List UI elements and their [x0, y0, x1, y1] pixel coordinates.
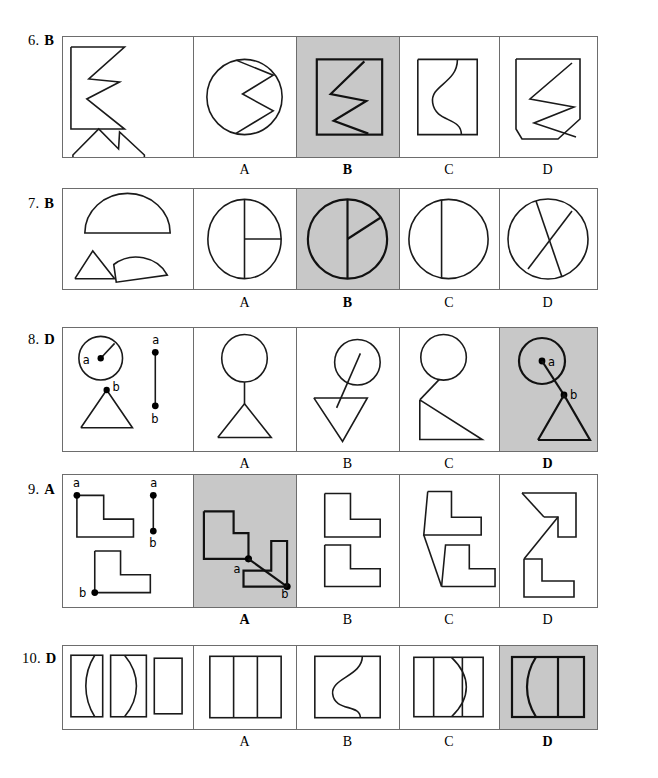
point-label-b: b: [113, 380, 120, 394]
option-figure-9-D: [500, 475, 597, 607]
option-figure-7-B: [297, 189, 399, 289]
option-letters-row-10: A B C D: [193, 735, 598, 749]
question-label-8: 8.D: [28, 332, 55, 347]
option-letter-7-C: C: [399, 296, 499, 310]
segment-label-b: b: [149, 536, 156, 550]
option-letter-8-B: B: [296, 457, 399, 471]
option-letter-8-A: A: [193, 457, 296, 471]
option-figure-9-B: [297, 475, 399, 607]
option-letter-8-C: C: [399, 457, 499, 471]
option-cell-6-B[interactable]: [297, 37, 400, 157]
question-number-10: 10.: [22, 650, 41, 666]
option-figure-10-B: [297, 646, 399, 729]
option-cell-9-A[interactable]: a b: [194, 475, 297, 607]
question-answer-7: B: [44, 195, 54, 211]
question-row-8: a b a b: [62, 327, 598, 452]
option-figure-10-A: [194, 646, 296, 729]
question-label-6: 6.B: [28, 33, 54, 48]
segment-label-b: b: [151, 412, 158, 426]
option-cell-7-C[interactable]: [400, 189, 500, 289]
point-label-a: a: [548, 355, 555, 369]
option-cell-10-D[interactable]: [500, 646, 597, 729]
option-figure-10-C: [400, 646, 499, 729]
point-label-b: b: [570, 388, 577, 402]
option-figure-7-A: [194, 189, 296, 289]
option-letter-10-A: A: [193, 735, 296, 749]
option-cell-7-D[interactable]: [500, 189, 597, 289]
option-cell-7-A[interactable]: [194, 189, 297, 289]
answer-key-page: 6.B: [0, 0, 658, 778]
prompt-figure-10: [63, 646, 193, 729]
option-cell-10-A[interactable]: [194, 646, 297, 729]
question-answer-8: D: [44, 331, 55, 347]
option-letter-7-A: A: [193, 296, 296, 310]
option-cell-8-A[interactable]: [194, 328, 297, 451]
option-letter-7-D: D: [499, 296, 596, 310]
option-cell-8-B[interactable]: [297, 328, 400, 451]
question-answer-9: A: [44, 481, 55, 497]
option-figure-10-D: [500, 646, 597, 729]
option-cell-8-C[interactable]: [400, 328, 500, 451]
option-letter-9-A: A: [193, 613, 296, 627]
option-cell-9-C[interactable]: [400, 475, 500, 607]
question-label-7: 7.B: [28, 196, 54, 211]
option-letter-10-C: C: [399, 735, 499, 749]
question-row-9: a a b b a b: [62, 474, 598, 608]
prompt-figure-8: a b a b: [63, 328, 193, 451]
segment-label-a: a: [150, 476, 157, 490]
option-figure-6-C: [400, 37, 499, 157]
option-letter-9-B: B: [296, 613, 399, 627]
question-row-6: [62, 36, 598, 158]
prompt-cell-8: a b a b: [63, 328, 194, 451]
option-figure-6-A: [194, 37, 296, 157]
option-cell-9-D[interactable]: [500, 475, 597, 607]
question-number-9: 9.: [28, 481, 39, 497]
option-figure-9-C: [400, 475, 499, 607]
question-row-10: [62, 645, 598, 730]
option-figure-7-D: [500, 189, 597, 289]
prompt-figure-7: [63, 189, 193, 289]
prompt-cell-9: a a b b: [63, 475, 194, 607]
option-letter-6-A: A: [193, 163, 296, 177]
prompt-cell-6: [63, 37, 194, 157]
question-number-7: 7.: [28, 195, 39, 211]
prompt-figure-6: [63, 37, 193, 157]
option-letter-9-C: C: [399, 613, 499, 627]
option-letters-row-7: A B C D: [193, 296, 598, 310]
question-number-6: 6.: [28, 32, 39, 48]
question-number-8: 8.: [28, 331, 39, 347]
option-figure-8-B: [297, 328, 399, 451]
option-cell-8-D[interactable]: a b: [500, 328, 597, 451]
point-label-a: a: [234, 562, 241, 576]
prompt-cell-10: [63, 646, 194, 729]
option-letter-6-C: C: [399, 163, 499, 177]
point-label-a: a: [83, 353, 90, 367]
option-figure-7-C: [400, 189, 499, 289]
option-letters-row-8: A B C D: [193, 457, 598, 471]
option-figure-6-D: [500, 37, 597, 157]
option-letter-9-D: D: [499, 613, 596, 627]
prompt-figure-9: a a b b: [63, 475, 193, 607]
option-cell-6-A[interactable]: [194, 37, 297, 157]
option-figure-8-A: [194, 328, 296, 451]
option-figure-9-A: a b: [194, 475, 296, 607]
option-cell-6-D[interactable]: [500, 37, 597, 157]
option-figure-8-C: [400, 328, 499, 451]
segment-label-a: a: [152, 333, 159, 347]
option-cell-7-B[interactable]: [297, 189, 400, 289]
option-letter-8-D: D: [499, 457, 596, 471]
option-cell-9-B[interactable]: [297, 475, 400, 607]
question-answer-6: B: [44, 32, 54, 48]
option-letters-row-6: A B C D: [193, 163, 598, 177]
option-cell-10-C[interactable]: [400, 646, 500, 729]
question-label-9: 9.A: [28, 482, 55, 497]
option-cell-6-C[interactable]: [400, 37, 500, 157]
point-label-b: b: [79, 586, 86, 600]
option-letter-7-B: B: [296, 296, 399, 310]
option-figure-8-D: a b: [500, 328, 597, 451]
question-label-10: 10.D: [22, 651, 56, 666]
option-letter-6-D: D: [499, 163, 596, 177]
option-cell-10-B[interactable]: [297, 646, 400, 729]
option-letter-10-D: D: [499, 735, 596, 749]
prompt-cell-7: [63, 189, 194, 289]
